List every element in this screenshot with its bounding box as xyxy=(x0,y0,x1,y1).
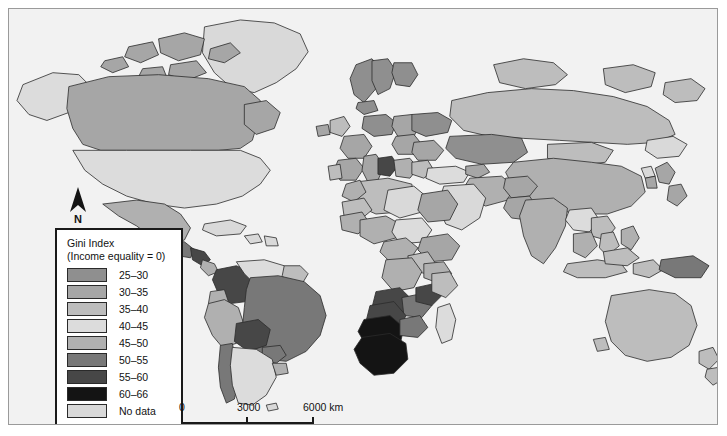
legend-item[interactable]: 25–30 xyxy=(67,266,181,283)
legend-item[interactable]: 60–66 xyxy=(67,385,181,402)
north-arrow-icon: N xyxy=(61,185,95,233)
legend-item-label: 50–55 xyxy=(119,354,148,366)
legend-item[interactable]: 35–40 xyxy=(67,300,181,317)
legend-swatch xyxy=(67,268,107,282)
legend-subtitle: (Income equality = 0) xyxy=(67,250,181,263)
scale-tick-label-2: 6000 km xyxy=(303,401,343,413)
legend-swatch xyxy=(67,404,107,418)
map-page: WORLD GINI INDEX .c{stroke:#2b2b2b;strok… xyxy=(0,0,727,436)
legend-item-label: 25–30 xyxy=(119,269,148,281)
legend-swatch xyxy=(67,353,107,367)
legend-item-label: 45–50 xyxy=(119,337,148,349)
scale-bar-tick xyxy=(246,417,248,424)
legend-item-label: 30–35 xyxy=(119,286,148,298)
scale-bar-labels: 0 3000 6000 km xyxy=(179,401,369,414)
legend-swatch xyxy=(67,319,107,333)
legend-swatch xyxy=(67,285,107,299)
legend-item[interactable]: 55–60 xyxy=(67,368,181,385)
legend-item-label: 40–45 xyxy=(119,320,148,332)
north-arrow-glyph xyxy=(61,185,95,215)
legend-swatch xyxy=(67,387,107,401)
legend-item[interactable]: 45–50 xyxy=(67,334,181,351)
world-map[interactable]: WORLD GINI INDEX .c{stroke:#2b2b2b;strok… xyxy=(8,8,718,425)
scale-bar-tick xyxy=(312,417,314,424)
legend-item[interactable]: 40–45 xyxy=(67,317,181,334)
legend-item-no-data[interactable]: No data xyxy=(67,402,181,419)
legend-item[interactable]: 30–35 xyxy=(67,283,181,300)
north-arrow-label: N xyxy=(61,213,95,225)
scale-tick-label-1: 3000 xyxy=(237,401,260,413)
legend-swatch xyxy=(67,302,107,316)
scale-bar-tick xyxy=(181,417,183,424)
legend-item-label: 35–40 xyxy=(119,303,148,315)
scale-bar: 0 3000 6000 km xyxy=(179,401,369,425)
legend-item[interactable]: 50–55 xyxy=(67,351,181,368)
legend-swatch xyxy=(67,370,107,384)
scale-bar-graphic xyxy=(181,417,314,424)
legend-swatch xyxy=(67,336,107,350)
legend-item-label: 60–66 xyxy=(119,388,148,400)
legend-item-label: 55–60 xyxy=(119,371,148,383)
scale-tick-label-0: 0 xyxy=(179,401,185,413)
map-legend: Gini Index (Income equality = 0) 25–30 3… xyxy=(55,228,183,425)
legend-title: Gini Index xyxy=(67,237,181,250)
legend-item-label: No data xyxy=(119,405,156,417)
